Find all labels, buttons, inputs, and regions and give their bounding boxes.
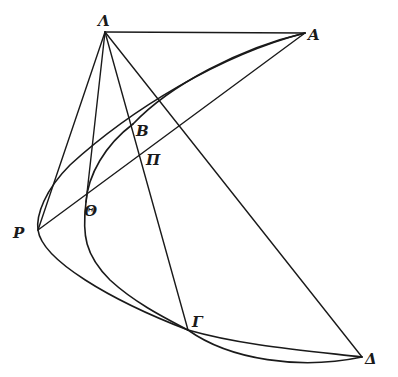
label-delta: Δ — [364, 350, 377, 368]
label-lambda: Λ — [96, 12, 110, 30]
segment-p-a — [38, 33, 305, 230]
label-a: A — [306, 26, 320, 44]
label-pi: Π — [145, 151, 161, 169]
diagram-canvas: Λ A B Π Θ P Γ Δ — [0, 0, 398, 377]
label-b: B — [135, 122, 149, 140]
segment-lambda-p — [38, 32, 105, 230]
segment-lambda-a — [105, 32, 305, 33]
segment-lambda-theta — [86, 32, 105, 202]
segment-lambda-gamma — [105, 32, 188, 330]
label-gamma: Γ — [191, 313, 204, 331]
label-theta: Θ — [84, 202, 97, 220]
label-p: P — [12, 224, 25, 242]
curve-outer-b — [133, 33, 305, 124]
geometry-diagram: Λ A B Π Θ P Γ Δ — [0, 0, 398, 377]
segment-lambda-delta — [105, 32, 362, 357]
curve-inner — [85, 124, 188, 330]
